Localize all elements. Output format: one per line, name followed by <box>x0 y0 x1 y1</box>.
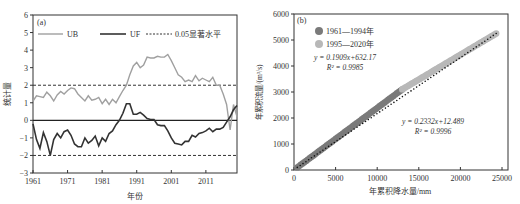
fit-dot <box>476 46 478 48</box>
fit-dot <box>365 121 367 123</box>
y-tick-label: −2 <box>19 151 28 160</box>
fit-dot <box>478 44 480 46</box>
x-tick-label: 1961 <box>25 177 41 186</box>
y-tick-label: −1 <box>19 134 28 143</box>
x-tick-label: 2011 <box>198 177 214 186</box>
x-tick-label: 5000 <box>328 174 344 183</box>
fit-dot <box>487 38 489 40</box>
x-tick-label: 25000 <box>492 174 512 183</box>
legend-s2-label: 1995—2020年 <box>326 39 374 49</box>
legend-s1-label: 1961—1994年 <box>326 26 374 36</box>
fit-dot <box>331 144 333 146</box>
fit-dot <box>387 105 389 107</box>
x-tick-label: 15000 <box>409 174 429 183</box>
legend-uf-label: UF <box>130 30 141 39</box>
legend-s2-marker <box>315 40 323 48</box>
fit-dot <box>453 61 455 63</box>
fit-dot <box>373 115 375 117</box>
y-tick-label: 1000 <box>273 140 289 149</box>
fit-dot <box>376 113 378 115</box>
fit-dot <box>370 117 372 119</box>
fit-dot <box>441 69 443 71</box>
fit-dot <box>433 75 435 77</box>
fit-dot <box>419 84 421 86</box>
fit-dot <box>379 111 381 113</box>
fit-dot <box>413 88 415 90</box>
r2-1995-2020: R² = 0.9985 <box>326 63 364 72</box>
x-tick-label: 1991 <box>129 177 145 186</box>
fit-dot <box>490 37 492 39</box>
fit-dot <box>385 107 387 109</box>
y-tick-label: 6000 <box>273 10 289 19</box>
fit-dot <box>422 82 424 84</box>
y-axis-title-a: 统计量 <box>2 82 12 106</box>
ub-line <box>33 55 237 131</box>
fit-dot <box>302 163 304 165</box>
fit-dot <box>334 142 336 144</box>
fit-dot <box>407 92 409 94</box>
fit-dot <box>353 128 355 130</box>
y-tick-label: 0 <box>285 166 289 175</box>
fit-dot <box>297 167 299 169</box>
fit-dot <box>444 67 446 69</box>
legend-b: 1961—1994年 1995—2020年 <box>315 26 374 49</box>
chart-panel-b: 0100020003000400050006000 05000100001500… <box>254 10 512 196</box>
y-tick-label: 6 <box>24 11 28 20</box>
x-tick-label: 10000 <box>367 174 387 183</box>
r2-1961-1994: R² = 0.9996 <box>414 127 452 136</box>
legend-s1-marker <box>315 27 323 35</box>
fit-dot <box>399 98 401 100</box>
fit-dot <box>439 71 441 73</box>
fit-dot <box>396 100 398 102</box>
x-axis-title-a: 年份 <box>127 191 143 201</box>
fit-dot <box>481 42 483 44</box>
fit-dot <box>339 138 341 140</box>
fit-dot <box>390 104 392 106</box>
equation-1961-1994: y = 0.2332x+12.489 <box>401 117 464 126</box>
fit-dot <box>473 48 475 50</box>
fit-dot <box>368 119 370 121</box>
y-axis-title-b: 年累积流量/(m³/s) <box>254 64 264 120</box>
fit-dot <box>410 90 412 92</box>
x-axis-ticks-b: 0500010000150002000025000 <box>292 167 512 183</box>
panel-label-a: (a) <box>37 18 46 27</box>
fit-dot <box>393 102 395 104</box>
fit-dot <box>325 148 327 150</box>
x-axis-ticks-a: 196119711981199120012011 <box>25 170 214 186</box>
y-tick-label: 2 <box>24 81 28 90</box>
y-tick-label: 4000 <box>273 62 289 71</box>
x-axis-title-b: 年累积降水量/mm <box>369 186 432 196</box>
x-tick-label: 2001 <box>163 177 179 186</box>
fit-dot <box>484 40 486 42</box>
fit-dot <box>436 73 438 75</box>
fit-dot <box>316 153 318 155</box>
fit-dot <box>305 161 307 163</box>
uf-line <box>33 104 237 156</box>
fit-dot <box>402 96 404 98</box>
fit-dot <box>348 132 350 134</box>
fit-dot <box>345 134 347 136</box>
y-axis-ticks-a: −3−2−10123456 <box>19 11 33 178</box>
fit-dot <box>314 155 316 157</box>
equation-1995-2020: y = 0.1909x+632.17 <box>313 53 376 62</box>
chart-panel-a: −3−2−10123456 196119711981199120012011 (… <box>2 11 237 201</box>
y-tick-label: 1 <box>24 99 28 108</box>
y-tick-label: 2000 <box>273 114 289 123</box>
fit-dot <box>319 151 321 153</box>
y-tick-label: 3000 <box>273 88 289 97</box>
y-tick-label: 3 <box>24 64 28 73</box>
legend-sig-label: 0.05显著水平 <box>175 29 221 39</box>
fit-dot <box>322 149 324 151</box>
x-tick-label: 20000 <box>450 174 470 183</box>
fit-dot <box>427 79 429 81</box>
reference-lines-a <box>33 85 237 155</box>
fit-dot <box>359 125 361 127</box>
fit-dot <box>311 157 313 159</box>
fit-dot <box>299 165 301 167</box>
fit-dot <box>424 81 426 83</box>
fit-dot <box>362 123 364 125</box>
fit-dot <box>328 146 330 148</box>
y-tick-label: 5000 <box>273 36 289 45</box>
fit-dot <box>495 33 497 35</box>
x-tick-label: 1981 <box>94 177 110 186</box>
